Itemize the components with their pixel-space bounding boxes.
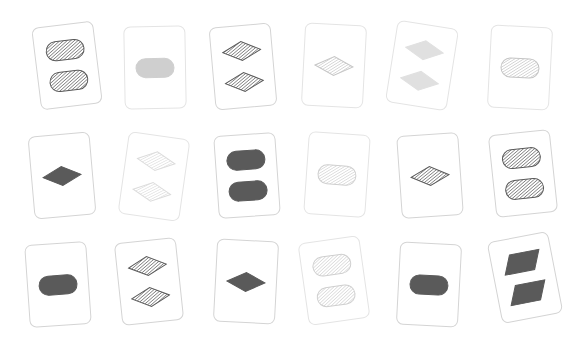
game-card[interactable]: [487, 231, 564, 324]
pill-symbol-icon: [316, 162, 357, 187]
pill-symbol-icon: [227, 179, 268, 204]
diamond-symbol-icon: [131, 178, 174, 205]
game-card[interactable]: [396, 241, 462, 327]
diamond-symbol-icon: [403, 36, 446, 64]
pill-symbol-icon: [44, 37, 86, 64]
diamond-symbol-icon: [223, 69, 265, 94]
game-card[interactable]: [301, 22, 367, 108]
pill-symbol-icon: [499, 55, 540, 79]
game-card[interactable]: [213, 238, 279, 324]
card-symbol-group: [116, 252, 181, 311]
diamond-symbol-icon: [126, 253, 168, 279]
card-symbol-group: [215, 147, 279, 204]
game-card[interactable]: [298, 235, 371, 326]
card-symbol-group: [301, 250, 368, 311]
game-card[interactable]: [28, 131, 97, 219]
pill-symbol-icon: [225, 148, 266, 173]
card-symbol-group: [125, 56, 185, 79]
pill-symbol-icon: [408, 272, 449, 296]
pill-symbol-icon: [37, 272, 78, 297]
diamond-symbol-icon: [225, 269, 266, 293]
game-card[interactable]: [213, 132, 281, 219]
game-card[interactable]: [396, 132, 464, 219]
card-symbol-group: [398, 272, 459, 297]
pill-symbol-icon: [315, 282, 358, 309]
pill-symbol-icon: [48, 68, 90, 95]
card-symbol-group: [489, 55, 550, 80]
card-symbol-group: [490, 246, 559, 309]
pill-symbol-icon: [504, 176, 546, 202]
card-symbol-group: [388, 35, 456, 97]
parallelogram-symbol-icon: [506, 278, 549, 307]
game-card[interactable]: [487, 24, 553, 110]
game-card[interactable]: [118, 131, 191, 222]
card-symbol-group: [31, 162, 93, 189]
parallelogram-symbol-icon: [500, 248, 543, 277]
game-card[interactable]: [488, 129, 558, 218]
card-symbol-group: [34, 36, 100, 96]
diamond-symbol-icon: [130, 284, 172, 310]
game-card[interactable]: [123, 25, 186, 109]
game-card[interactable]: [31, 21, 103, 111]
game-card[interactable]: [24, 241, 92, 328]
card-symbol-group: [211, 37, 275, 95]
game-card[interactable]: [385, 20, 459, 112]
card-symbol-group: [121, 146, 188, 207]
diamond-symbol-icon: [221, 38, 263, 63]
diamond-symbol-icon: [398, 67, 441, 95]
diamond-symbol-icon: [41, 163, 83, 188]
diamond-symbol-icon: [135, 147, 178, 174]
card-board: [0, 0, 579, 340]
card-symbol-group: [303, 53, 364, 78]
pill-symbol-icon: [311, 251, 354, 278]
card-symbol-group: [27, 271, 88, 297]
diamond-symbol-icon: [313, 53, 354, 77]
card-symbol-group: [399, 162, 460, 188]
game-card[interactable]: [114, 237, 184, 326]
card-symbol-group: [306, 161, 367, 187]
game-card[interactable]: [209, 22, 278, 110]
pill-symbol-icon: [135, 56, 175, 79]
card-symbol-group: [490, 144, 555, 203]
game-card[interactable]: [303, 131, 371, 218]
card-symbol-group: [215, 269, 276, 294]
pill-symbol-icon: [500, 145, 542, 171]
diamond-symbol-icon: [409, 163, 450, 188]
